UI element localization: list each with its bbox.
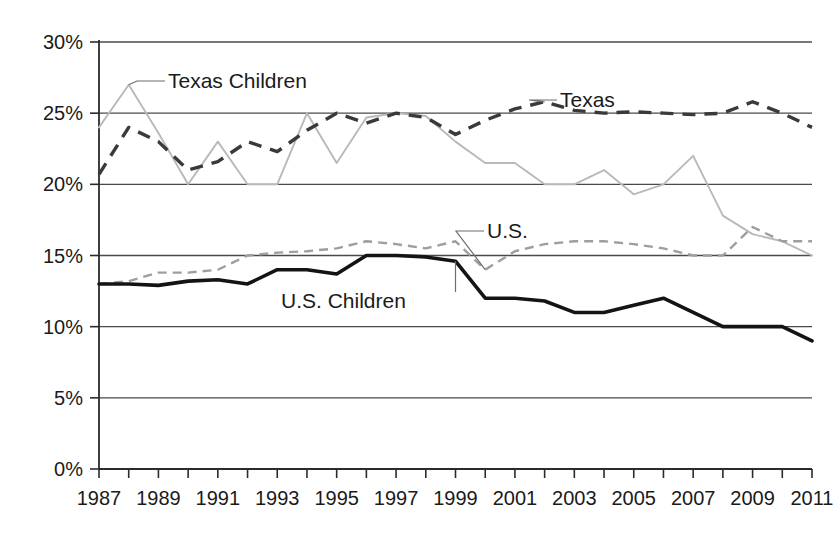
x-tick-label: 2005 [612, 487, 657, 509]
series-line-texas-children [99, 85, 812, 256]
y-tick-label: 15% [43, 245, 83, 267]
x-tick-label: 1995 [314, 487, 359, 509]
y-axis-tick-labels: 30%25%20%15%10%5%0% [43, 31, 83, 480]
x-tick-label: 1999 [433, 487, 478, 509]
x-tick-label: 2001 [493, 487, 538, 509]
series-label-texas: Texas [560, 88, 615, 111]
series-lines [99, 85, 812, 341]
y-tick-label: 10% [43, 316, 83, 338]
x-axis-tick-marks [99, 469, 812, 478]
x-tick-label: 1989 [136, 487, 181, 509]
y-axis-tick-marks [90, 42, 99, 469]
x-tick-label: 2007 [671, 487, 716, 509]
y-tick-label: 5% [54, 387, 83, 409]
annotation-leader-line [129, 81, 165, 85]
annotation-leader-line [529, 100, 557, 102]
x-tick-label: 1991 [196, 487, 241, 509]
y-tick-label: 25% [43, 102, 83, 124]
y-tick-label: 0% [54, 458, 83, 480]
x-axis-tick-labels: 1987198919911993199519971999200120032005… [77, 487, 834, 509]
x-tick-label: 2011 [790, 487, 833, 509]
x-tick-label: 2009 [730, 487, 775, 509]
y-tick-label: 30% [43, 31, 83, 53]
line-chart: 30%25%20%15%10%5%0% 19871989199119931995… [0, 0, 834, 535]
x-tick-label: 1987 [77, 487, 122, 509]
x-tick-label: 1993 [255, 487, 300, 509]
x-tick-label: 1997 [374, 487, 419, 509]
annotation-leader-line [456, 231, 485, 270]
x-tick-label: 2003 [552, 487, 597, 509]
chart-container: 30%25%20%15%10%5%0% 19871989199119931995… [0, 0, 834, 535]
series-label-texas-children: Texas Children [168, 69, 307, 92]
gridlines [99, 42, 812, 398]
y-tick-label: 20% [43, 173, 83, 195]
series-label-us: U.S. [487, 219, 528, 242]
series-label-us-children: U.S. Children [281, 289, 406, 312]
